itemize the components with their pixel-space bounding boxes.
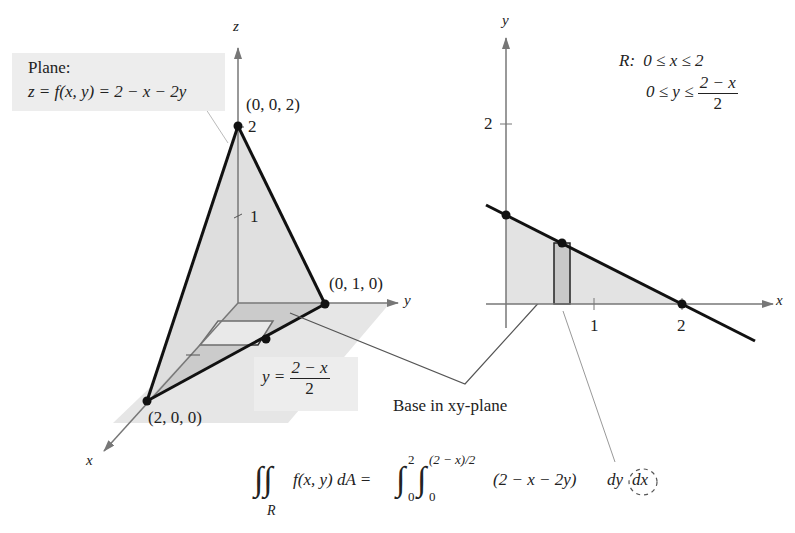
region-y-bounds: 0 ≤ y ≤ 2 − x 2 [646,73,738,114]
outer-upper-limit: 2 [408,452,415,468]
boundary-fraction: 2 − x 2 [290,358,330,399]
point-label-0-0-2: (0, 0, 2) [246,95,300,115]
x-axis-label-3d: x [86,452,93,469]
integral-region-subscript: R [267,503,276,519]
integration-strip-2d [554,243,570,304]
plane-callout-title: Plane: [28,58,71,78]
boundary-denominator: 2 [290,379,330,399]
connector-label: Base in xy-plane [393,396,507,416]
strip-edge-point-3d [262,335,271,344]
point-0-1-0 [321,300,330,309]
point-2-0-0 [143,397,152,406]
boundary-equation: y = 2 − x 2 [262,358,330,399]
outer-integral-sign: ∫ [394,460,408,500]
point-label-0-1-0: (0, 1, 0) [329,274,383,294]
x-axis-label-2d: x [776,292,783,309]
region-y-numerator: 2 − x [698,73,738,94]
y-tick-label-2: 2 [484,114,493,134]
boundary-lhs: y = [262,367,285,386]
z-tick-label-2: 2 [248,117,257,137]
inner-integral-sign: ∫ [415,460,429,500]
point-0-1-2d [502,211,511,220]
z-tick-label-1: 1 [250,207,259,227]
point-label-2-0-0: (2, 0, 0) [148,408,202,428]
y-axis-label-3d: y [404,292,411,309]
region-definition: R: 0 ≤ x ≤ 2 [619,51,704,71]
integrand: (2 − x − 2y) [493,470,576,490]
outer-lower-limit: 0 [408,489,415,505]
plane-equation: z = f(x, y) = 2 − x − 2y [28,82,186,102]
x-tick-label-2: 2 [677,316,686,336]
integral-dy: dy [607,470,623,490]
x-tick-label-1: 1 [590,316,599,336]
point-2-0-2d [678,300,687,309]
point-0-0-2 [234,122,243,131]
inner-lower-limit: 0 [429,489,436,505]
integral-lhs-body: f(x, y) dA = [293,470,371,490]
inner-upper-limit: (2 − x)/2 [429,452,475,468]
y-axis-label-2d: y [502,12,509,29]
integral-dx: dx [632,470,648,490]
region-y-bounds-prefix: 0 ≤ y ≤ [646,82,693,101]
region-label: R: [619,51,635,70]
dx-connector-line [563,311,615,462]
region-x-bounds: 0 ≤ x ≤ 2 [643,51,703,70]
region-y-denominator: 2 [698,94,738,114]
z-axis-label: z [233,18,239,35]
double-integral-sign: ∫∫ [252,460,275,500]
strip-top-point-2d [558,239,567,248]
region-y-fraction: 2 − x 2 [698,73,738,114]
boundary-numerator: 2 − x [290,358,330,379]
